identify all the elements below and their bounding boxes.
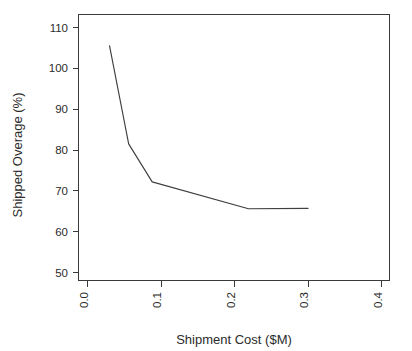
y-tick-label-60: 60: [55, 226, 68, 238]
y-tick-label-70: 70: [55, 185, 68, 197]
y-tick-label-80: 80: [55, 144, 68, 156]
y-axis-ticks: [73, 28, 78, 273]
data-series-line: [110, 46, 308, 209]
y-tick-label-110: 110: [50, 22, 68, 34]
y-tick-label-90: 90: [55, 103, 68, 115]
x-tick-label-0.4: 0.4: [372, 291, 384, 308]
x-tick-label-0.0: 0.0: [78, 292, 90, 308]
x-tick-label-0.1: 0.1: [151, 292, 163, 308]
x-axis-tick-labels: 0.0 0.1 0.2 0.3 0.4: [78, 291, 384, 308]
y-axis-tick-labels: 110 100 90 80 70 60 50: [49, 22, 68, 279]
plot-frame: [79, 15, 390, 281]
x-tick-label-0.3: 0.3: [298, 292, 310, 308]
line-chart: 110 100 90 80 70 60 50 0.0 0.1 0.2 0.3 0…: [0, 0, 412, 351]
x-axis-title: Shipment Cost ($M): [176, 332, 292, 347]
x-tick-label-0.2: 0.2: [225, 292, 237, 308]
chart-container: 110 100 90 80 70 60 50 0.0 0.1 0.2 0.3 0…: [0, 0, 412, 351]
y-axis-title: Shipped Overage (%): [10, 92, 25, 217]
y-tick-label-50: 50: [55, 267, 68, 279]
y-tick-label-100: 100: [49, 62, 68, 74]
x-axis-ticks: [88, 281, 382, 287]
